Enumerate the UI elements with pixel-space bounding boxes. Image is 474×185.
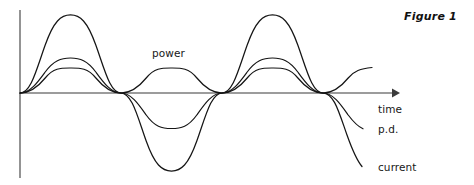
pd-curve-label: p.d.: [378, 123, 398, 135]
power-curve-label: power: [152, 47, 185, 59]
current-curve-label: current: [378, 161, 417, 173]
figure-container: power time p.d. current Figure 1: [0, 0, 474, 185]
x-axis-arrow-icon: [392, 89, 400, 98]
figure-caption: Figure 1: [404, 10, 457, 23]
time-axis-label: time: [378, 103, 402, 115]
power-curve: [20, 68, 372, 94]
waveform-plot: [0, 0, 474, 185]
